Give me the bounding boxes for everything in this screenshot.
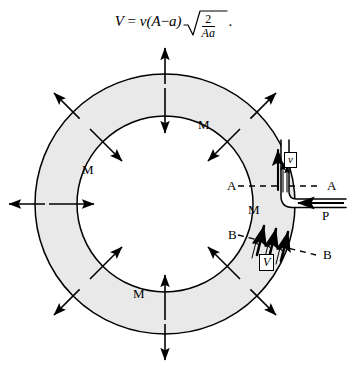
label-B-left: B xyxy=(228,228,237,241)
velocity-box-small-v: v xyxy=(284,152,297,168)
annulus-diagram xyxy=(0,0,347,371)
velocity-box-capital-V: V xyxy=(259,254,274,271)
label-P: P xyxy=(322,209,329,222)
label-M-left: M xyxy=(82,163,94,176)
label-M-bottom: M xyxy=(133,287,145,300)
label-B-right: B xyxy=(323,248,332,261)
label-M-right: M xyxy=(248,203,260,216)
outward-arrow-lower-left xyxy=(54,289,80,315)
outward-arrow-lower-right xyxy=(250,289,276,315)
outward-arrow-upper-right xyxy=(250,93,276,119)
label-M-top-right: M xyxy=(198,118,210,131)
tube-inner-wall xyxy=(289,140,346,199)
label-A-left: A xyxy=(227,179,236,192)
label-A-right: A xyxy=(327,179,336,192)
outward-arrow-upper-left xyxy=(54,93,80,119)
